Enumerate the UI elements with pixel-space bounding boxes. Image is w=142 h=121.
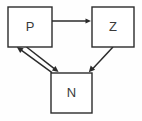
node-z-label: Z xyxy=(109,19,117,34)
edge-n-to-p-arrowhead xyxy=(17,47,24,53)
diagram-svg: P Z N xyxy=(0,0,142,121)
diagram-canvas: P Z N xyxy=(0,0,142,121)
edge-n-to-p-line xyxy=(20,49,52,72)
node-p[interactable]: P xyxy=(8,7,52,47)
edge-z-to-n-line xyxy=(92,47,113,69)
node-p-label: P xyxy=(26,19,35,34)
edge-n-to-p xyxy=(17,47,52,73)
edge-p-to-n-line xyxy=(27,47,56,70)
node-n-label: N xyxy=(67,85,76,100)
node-z[interactable]: Z xyxy=(92,7,134,47)
node-n[interactable]: N xyxy=(51,73,92,113)
edge-p-to-n xyxy=(27,47,59,72)
edge-p-to-z-arrowhead xyxy=(86,18,92,23)
edge-z-to-n xyxy=(89,47,113,72)
edge-p-to-z xyxy=(52,18,91,23)
